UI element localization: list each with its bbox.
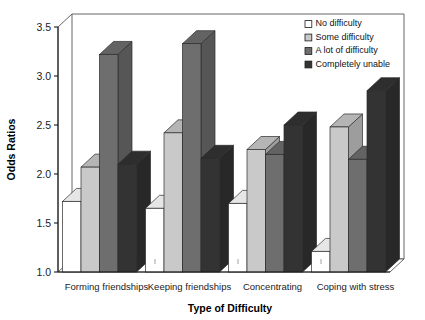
legend-item: A lot of difficulty xyxy=(305,45,378,55)
x-category-label: Coping with stress xyxy=(317,281,395,292)
y-tick-label: 1.5 xyxy=(36,217,51,229)
x-category-label: Forming friendships xyxy=(65,281,149,292)
y-tick-label: 2.0 xyxy=(36,168,51,180)
y-tick-label: 1.0 xyxy=(36,266,51,278)
y-tick-label: 3.5 xyxy=(36,21,51,33)
legend-item: Some difficulty xyxy=(305,32,374,42)
y-tick-label: 2.5 xyxy=(36,119,51,131)
bar xyxy=(284,112,317,272)
x-category-label: Keeping friendships xyxy=(148,281,232,292)
legend-label: No difficulty xyxy=(316,18,363,28)
legend-label: A lot of difficulty xyxy=(316,45,379,55)
legend-label: Some difficulty xyxy=(316,32,375,42)
bar xyxy=(367,78,400,272)
y-axis-title: Odds Ratios xyxy=(5,118,17,180)
y-tick-label: 3.0 xyxy=(36,70,51,82)
chart-container: 1.01.52.02.53.03.5Forming friendshipsKee… xyxy=(0,0,425,320)
legend-item: Completely unable xyxy=(305,59,390,69)
x-axis-title: Type of Difficulty xyxy=(188,302,273,314)
legend-label: Completely unable xyxy=(316,59,391,69)
odds-ratios-bar-chart: 1.01.52.02.53.03.5Forming friendshipsKee… xyxy=(0,0,425,320)
x-category-label: Concentrating xyxy=(243,281,302,292)
